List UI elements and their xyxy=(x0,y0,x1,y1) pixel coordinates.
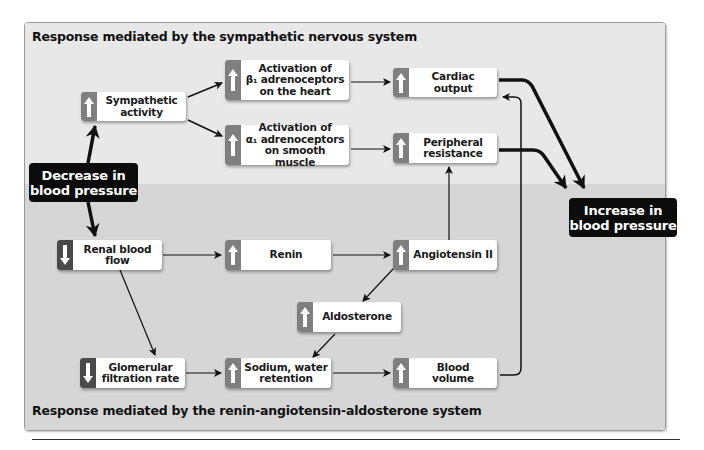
arrow-up-icon xyxy=(225,240,241,270)
node-label: Peripheral resistance xyxy=(423,137,483,160)
node-sodium-water-retention: Sodium, water retention xyxy=(225,358,331,388)
node-alpha1-activation: Activation of α₁ adrenoceptors on smooth… xyxy=(225,125,349,165)
arrow-up-icon xyxy=(297,302,313,332)
arrow-up-icon xyxy=(225,60,241,100)
node-label: Aldosterone xyxy=(322,311,392,323)
sympathetic-section-title: Response mediated by the sympathetic ner… xyxy=(32,29,417,44)
arrow-up-icon xyxy=(225,125,241,165)
decrease-blood-pressure-box: Decrease in blood pressure xyxy=(29,163,138,202)
node-renal-blood-flow: Renal blood flow xyxy=(57,240,162,270)
node-angiotensin-ii: Angiotensin II xyxy=(393,240,497,270)
node-sympathetic-activity: Sympathetic activity xyxy=(81,92,186,121)
node-label: Renal blood flow xyxy=(84,244,152,267)
increase-blood-pressure-label: Increase in blood pressure xyxy=(569,203,676,233)
node-blood-volume: Blood volume xyxy=(393,358,497,388)
node-glomerular-filtration-rate: Glomerular filtration rate xyxy=(80,358,185,388)
arrow-up-icon xyxy=(393,68,409,97)
arrow-up-icon xyxy=(393,133,409,163)
node-aldosterone: Aldosterone xyxy=(297,302,401,332)
node-peripheral-resistance: Peripheral resistance xyxy=(393,133,497,163)
node-beta1-activation: Activation of β₁ adrenoceptors on the he… xyxy=(225,60,349,100)
node-label: Sodium, water retention xyxy=(244,362,327,385)
decrease-blood-pressure-label: Decrease in blood pressure xyxy=(30,168,137,198)
increase-blood-pressure-box: Increase in blood pressure xyxy=(569,198,677,237)
node-label: Angiotensin II xyxy=(413,249,493,261)
node-label: Glomerular filtration rate xyxy=(102,362,179,385)
node-cardiac-output: Cardiac output xyxy=(393,68,497,97)
arrow-up-icon xyxy=(225,358,241,388)
figure-divider xyxy=(32,439,680,440)
raas-section-title: Response mediated by the renin-angiotens… xyxy=(32,403,482,418)
node-label: Cardiac output xyxy=(432,71,475,94)
node-label: Activation of α₁ adrenoceptors on smooth… xyxy=(244,122,346,168)
arrow-down-icon xyxy=(80,358,96,388)
arrow-up-icon xyxy=(393,358,409,388)
node-label: Activation of β₁ adrenoceptors on the he… xyxy=(246,63,345,98)
node-label: Renin xyxy=(270,249,303,261)
node-label: Sympathetic activity xyxy=(105,95,177,118)
node-label: Blood volume xyxy=(432,362,474,385)
arrow-down-icon xyxy=(57,240,73,270)
arrow-up-icon xyxy=(393,240,409,270)
node-renin: Renin xyxy=(225,240,331,270)
arrow-up-icon xyxy=(81,92,97,121)
